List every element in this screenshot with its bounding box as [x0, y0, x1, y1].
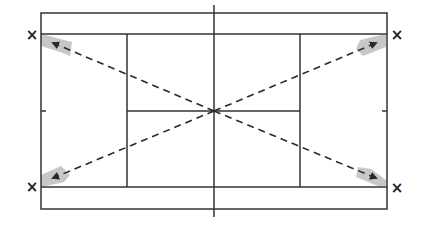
shot-to-top-left — [53, 43, 214, 111]
x-marker-icon-bottom-left: × — [26, 178, 39, 196]
shot-to-bottom-right — [214, 111, 376, 178]
x-marker-icon-top-left: × — [26, 26, 39, 44]
target-zone-top-left — [41, 35, 72, 56]
tennis-court-diagram: Tennis court cross-court diagonal shots — [0, 0, 427, 226]
shot-to-top-right — [214, 43, 376, 111]
target-zone-bottom-left — [41, 166, 70, 186]
shot-to-bottom-left — [53, 111, 214, 178]
x-marker-icon-top-right: × — [391, 26, 404, 44]
x-marker-icon-bottom-right: × — [391, 179, 404, 197]
court-canvas: × × × × — [0, 0, 427, 226]
